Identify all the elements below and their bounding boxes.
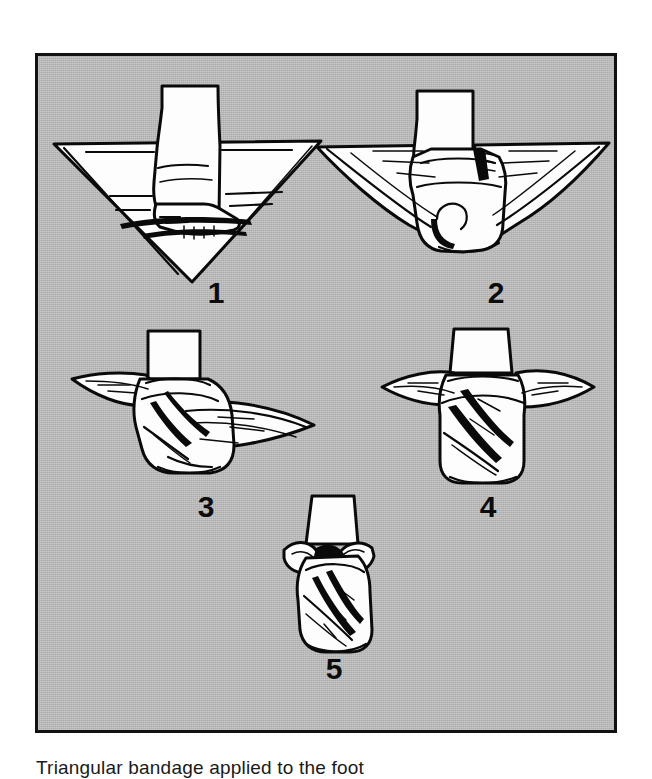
figure-5-number: 5 (314, 654, 354, 684)
figure-2-number: 2 (476, 278, 516, 308)
illustration-panel: 1 (35, 53, 617, 733)
figure-1-illustration (50, 86, 325, 286)
figure-2-illustration (313, 91, 613, 286)
figure-4-illustration (378, 329, 598, 494)
figure-caption: Triangular bandage applied to the foot (36, 757, 364, 779)
figure-4-number: 4 (468, 492, 508, 522)
figure-1-number: 1 (196, 278, 236, 308)
figure-3-illustration (68, 331, 328, 491)
figure-3-number: 3 (186, 492, 226, 522)
figure-5-illustration (266, 496, 406, 661)
